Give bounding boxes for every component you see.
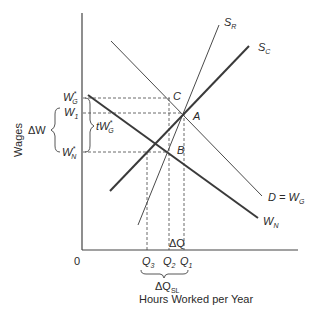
s-r-label: SR <box>224 16 236 30</box>
supply-curve-r <box>138 25 219 225</box>
net-wage-curve <box>88 95 258 218</box>
labor-market-diagram: SR SC D = WG WN C A B W*G W1 W*N ΔW tW*G… <box>0 0 319 317</box>
wg-star-label: W*G <box>63 90 78 105</box>
x-axis-title: Hours Worked per Year <box>139 293 253 305</box>
point-c-label: C <box>173 90 181 102</box>
point-b-label: B <box>177 144 184 156</box>
s-c-label: SC <box>258 41 271 55</box>
q2-label: Q2 <box>163 255 176 269</box>
demand-label: D = WG <box>268 191 305 205</box>
wn-star-label: W*N <box>62 145 77 160</box>
q1-label: Q1 <box>180 255 193 269</box>
delta-q-sl-label: ΔQSL <box>155 280 180 294</box>
w1-label: W1 <box>64 106 78 120</box>
delta-w-brace <box>51 108 60 152</box>
point-a-label: A <box>192 110 200 122</box>
origin-label: 0 <box>74 255 80 267</box>
delta-q-sl-brace <box>141 270 188 278</box>
delta-w-label: ΔW <box>28 124 46 136</box>
q3-label: Q3 <box>142 255 155 269</box>
tax-wedge-label: tW*G <box>96 119 114 134</box>
supply-curve-c <box>110 46 249 191</box>
tax-wedge-brace <box>85 98 94 152</box>
delta-q-label: ΔQ <box>169 237 185 249</box>
wn-curve-label: WN <box>263 215 279 229</box>
demand-curve <box>111 41 262 196</box>
y-axis-title: Wages <box>12 123 24 157</box>
